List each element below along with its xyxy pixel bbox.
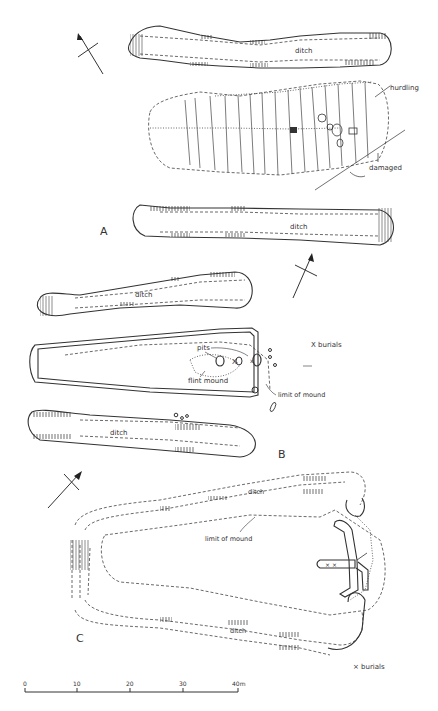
ditch-c-top-label: ditch [248, 488, 264, 496]
north-arrow-b-icon [293, 253, 317, 298]
ditch-a-bottom: ditch [133, 205, 393, 245]
svg-text:X: X [232, 358, 237, 366]
ditch-a-bottom-label: ditch [290, 223, 307, 231]
ditch-b-bottom: ditch [28, 410, 255, 457]
panel-c-letter: C [76, 632, 84, 645]
mound-b: X x pits flint mound limit of mound X bu… [30, 328, 342, 412]
ditch-a-top: ditch [128, 26, 391, 68]
scale-tick-10: 10 [73, 680, 81, 687]
ditch-b-bottom-label: ditch [110, 429, 127, 437]
panel-b: ditch X x pits flint mound limit of moun… [28, 253, 342, 461]
site-plans-figure: ditch [0, 0, 438, 711]
mound-c: limit of mound × × [101, 510, 385, 615]
limit-of-mound-b-label: limit of mound [278, 391, 325, 399]
mound-a: hurdling damaged [149, 81, 419, 190]
hurdling-label: hurdling [390, 84, 419, 92]
ditch-c: ditch ditch [70, 472, 365, 655]
panel-c: ditch ditch limit of mound × × C × buria… [48, 471, 385, 671]
ditch-a-top-label: ditch [295, 47, 312, 55]
burials-legend-b: X burials [311, 341, 342, 349]
panel-b-letter: B [278, 448, 286, 461]
scale-tick-40m: 40m [232, 680, 246, 687]
ditch-b-top-label: ditch [135, 291, 152, 299]
north-arrow-c-icon [48, 471, 82, 508]
damaged-label: damaged [369, 164, 402, 172]
burials-legend-c: × burials [353, 663, 385, 671]
panel-a: ditch [77, 26, 419, 245]
north-arrow-a-icon [77, 33, 103, 74]
scale-bar: 0 10 20 30 40m [23, 680, 246, 692]
flint-mound-label: flint mound [188, 377, 228, 385]
ditch-c-bottom-label: ditch [230, 627, 246, 635]
scale-tick-0: 0 [23, 680, 27, 687]
svg-text:× ×: × × [325, 561, 337, 568]
scale-tick-20: 20 [126, 680, 134, 687]
limit-of-mound-c-label: limit of mound [205, 535, 252, 543]
pits-label: pits [197, 344, 210, 352]
scale-tick-30: 30 [179, 680, 187, 687]
svg-text:x: x [250, 357, 254, 364]
ditch-b-top: ditch [37, 272, 252, 316]
panel-a-letter: A [100, 225, 108, 238]
